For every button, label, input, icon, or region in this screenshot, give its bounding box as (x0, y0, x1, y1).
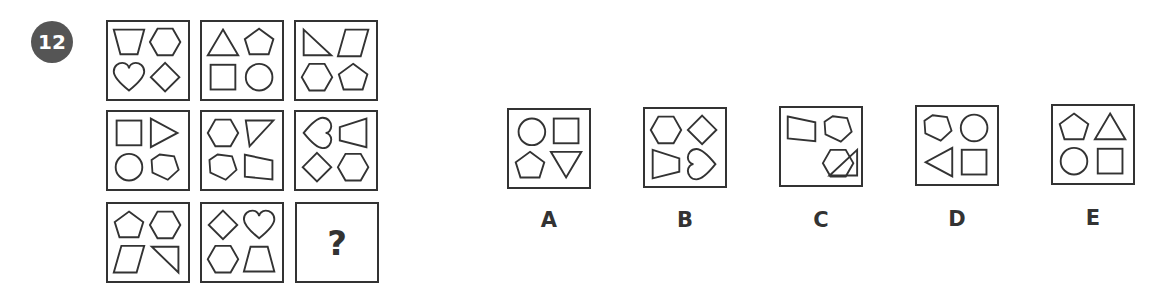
option-c-label[interactable]: C (779, 208, 863, 232)
question-number-badge: 12 (31, 21, 73, 63)
grid-cell-r1c2 (200, 20, 284, 101)
option-a-label[interactable]: A (507, 208, 591, 232)
option-d-box[interactable] (915, 105, 999, 186)
question-mark: ? (297, 204, 377, 281)
grid-cell-r2c2 (200, 110, 284, 191)
grid-cell-r2c3 (294, 110, 378, 191)
grid-cell-missing: ? (295, 202, 379, 283)
grid-cell-r1c1 (106, 20, 190, 101)
option-b-label[interactable]: B (643, 208, 727, 232)
option-b-box[interactable] (643, 107, 727, 188)
grid-cell-r2c1 (106, 110, 190, 191)
option-a-box[interactable] (507, 108, 591, 189)
grid-cell-r1c3 (294, 20, 378, 101)
option-d-label[interactable]: D (915, 207, 999, 231)
option-c-box[interactable] (779, 106, 863, 187)
grid-cell-r3c1 (106, 202, 190, 283)
option-e-label[interactable]: E (1051, 206, 1135, 230)
option-e-box[interactable] (1051, 104, 1135, 185)
grid-cell-r3c2 (200, 202, 284, 283)
